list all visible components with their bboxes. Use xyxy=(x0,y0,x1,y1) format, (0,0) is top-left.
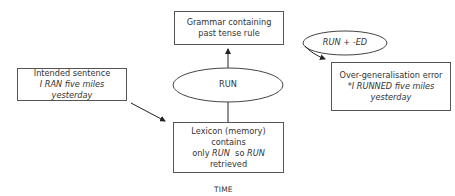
run-ed-ellipse-label: RUN + -ED xyxy=(315,37,375,47)
time-axis-label: TIME xyxy=(214,185,233,194)
lexicon-line3: retrieved xyxy=(210,159,247,170)
intended-line1: Intended sentence xyxy=(34,68,111,79)
lexicon-line2: only RUN so RUN xyxy=(192,148,265,159)
lexicon-box: Lexicon (memory) contains only RUN so RU… xyxy=(173,122,284,173)
lexicon-so: so xyxy=(230,148,247,158)
lexicon-line1: Lexicon (memory) contains xyxy=(174,126,283,148)
overgeneralisation-box: Over-generalisation error *I RUNNED five… xyxy=(331,62,451,111)
lexicon-run-1: RUN xyxy=(212,148,230,158)
arrow-intended-to-lexicon xyxy=(131,103,165,121)
grammar-box: Grammar containing past tense rule xyxy=(174,11,284,45)
intended-line2: I RAN five miles yesterday xyxy=(18,79,126,101)
grammar-line1: Grammar containing xyxy=(187,17,272,28)
intended-sentence-box: Intended sentence I RAN five miles yeste… xyxy=(17,68,127,101)
overgen-line2: *I RUNNED five miles xyxy=(348,81,435,92)
overgen-line3: yesterday xyxy=(371,92,412,103)
lexicon-run-2: RUN xyxy=(247,148,265,158)
lexicon-only: only xyxy=(192,148,212,158)
grammar-line2: past tense rule xyxy=(198,28,260,39)
run-ellipse-label: RUN xyxy=(203,79,253,89)
overgen-line1: Over-generalisation error xyxy=(340,70,443,81)
